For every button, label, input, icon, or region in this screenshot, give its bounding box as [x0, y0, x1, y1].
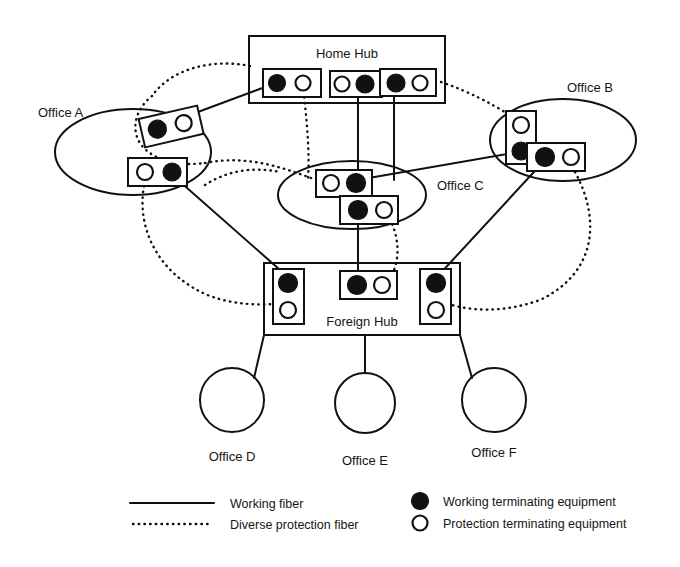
working-terminating-equipment[interactable] [387, 74, 405, 92]
working-terminating-equipment[interactable] [427, 274, 446, 293]
office-e-node[interactable]: Office E [335, 373, 395, 468]
equipment-box-fh-1[interactable] [273, 269, 304, 324]
working-terminating-equipment[interactable] [349, 201, 368, 220]
working-terminating-equipment[interactable] [356, 75, 374, 93]
equipment-box-fh-2[interactable] [340, 271, 397, 299]
office-b-node[interactable]: Office B [490, 80, 636, 181]
working-fiber-foreignhub-officeD [254, 335, 264, 378]
office-c-label: Office C [437, 178, 484, 193]
protection-terminating-equipment[interactable] [513, 117, 529, 133]
legend-item-protection-terminating-equipment: Protection terminating equipment [413, 516, 627, 532]
home-hub-node[interactable]: Home Hub [249, 36, 445, 103]
office-a-label: Office A [38, 105, 84, 120]
office-a-node[interactable]: Office A [38, 105, 211, 195]
legend-label-diverse-protection-fiber: Diverse protection fiber [230, 518, 359, 532]
foreign-hub-label: Foreign Hub [326, 314, 398, 329]
filled-circle-swatch-icon [412, 493, 429, 510]
office-f-circle[interactable] [462, 368, 526, 432]
open-circle-swatch-icon [413, 516, 428, 531]
protection-fiber-officeA-homehub [152, 64, 250, 96]
protection-terminating-equipment[interactable] [323, 175, 339, 191]
office-e-circle[interactable] [335, 373, 395, 433]
protection-fiber-homehub-officeB [441, 82, 508, 114]
network-diagram-canvas: Home Hub Office A [0, 0, 680, 567]
legend-label-protection-terminating-equipment: Protection terminating equipment [443, 517, 627, 531]
legend-label-working-terminating-equipment: Working terminating equipment [443, 495, 616, 509]
protection-terminating-equipment[interactable] [428, 302, 444, 318]
legend-item-working-terminating-equipment: Working terminating equipment [412, 493, 617, 510]
protection-terminating-equipment[interactable] [296, 76, 311, 91]
equipment-box-hh-3[interactable] [380, 69, 436, 96]
protection-terminating-equipment[interactable] [413, 76, 428, 91]
equipment-box-oc-1[interactable] [316, 170, 372, 197]
protection-terminating-equipment[interactable] [376, 202, 392, 218]
legend-item-diverse-protection-fiber: Diverse protection fiber [133, 518, 359, 532]
protection-terminating-equipment[interactable] [335, 77, 350, 92]
equipment-box-ob-2[interactable] [527, 143, 585, 171]
legend: Working fiber Diverse protection fiber W… [130, 493, 627, 533]
protection-terminating-equipment[interactable] [280, 302, 296, 318]
diagram-svg: Home Hub Office A [0, 0, 680, 567]
working-terminating-equipment[interactable] [536, 148, 555, 167]
working-terminating-equipment[interactable] [348, 276, 367, 295]
office-e-label: Office E [342, 453, 388, 468]
working-terminating-equipment[interactable] [269, 75, 286, 92]
protection-terminating-equipment[interactable] [563, 149, 579, 165]
office-d-circle[interactable] [200, 368, 264, 432]
protection-fiber-homehub-officeC [303, 86, 309, 180]
working-terminating-equipment[interactable] [163, 163, 181, 181]
working-fiber-foreignhub-officeF [460, 335, 472, 378]
working-fiber-group [163, 83, 545, 378]
office-f-label: Office F [471, 445, 516, 460]
equipment-box-hh-2[interactable] [330, 71, 382, 97]
equipment-box-oa-1[interactable] [139, 106, 204, 148]
legend-item-working-fiber: Working fiber [130, 497, 303, 511]
protection-terminating-equipment[interactable] [137, 164, 153, 180]
equipment-box-fh-3[interactable] [420, 269, 451, 324]
working-terminating-equipment[interactable] [279, 274, 298, 293]
equipment-box-oa-2[interactable] [128, 158, 187, 186]
equipment-box-hh-1[interactable] [263, 69, 321, 97]
equipment-box-oc-2[interactable] [340, 196, 398, 224]
protection-terminating-equipment[interactable] [374, 277, 390, 293]
protection-fiber-officeC-foreignhub [390, 219, 398, 278]
home-hub-label: Home Hub [316, 46, 378, 61]
office-b-label: Office B [567, 80, 613, 95]
office-d-node[interactable]: Office D [200, 368, 264, 464]
working-terminating-equipment[interactable] [347, 174, 366, 193]
office-f-node[interactable]: Office F [462, 368, 526, 460]
protection-fiber-officeA-foreignhub [142, 186, 277, 304]
foreign-hub-node[interactable]: Foreign Hub [264, 263, 460, 335]
office-d-label: Office D [209, 449, 256, 464]
legend-label-working-fiber: Working fiber [230, 497, 303, 511]
protection-fiber-officeA-stub [205, 170, 280, 185]
